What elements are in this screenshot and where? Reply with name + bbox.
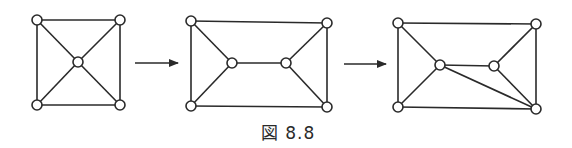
graph-edge — [398, 23, 536, 24]
graph-edge — [440, 65, 536, 109]
graph-edge — [191, 63, 232, 106]
graph-edge — [398, 107, 536, 109]
graph-edge — [398, 65, 440, 107]
graph-node — [489, 61, 499, 71]
graph-node — [73, 57, 83, 67]
graph-node — [115, 15, 125, 25]
graph-node — [393, 18, 403, 28]
graph-node — [435, 60, 445, 70]
graph-node — [393, 102, 403, 112]
graph-node — [281, 58, 291, 68]
graph-node — [115, 100, 125, 110]
graph-node — [531, 104, 541, 114]
graph-edge — [494, 24, 536, 66]
figure-caption: 図 8.8 — [0, 119, 572, 144]
graph-edge — [191, 21, 327, 23]
graph-edge — [398, 23, 440, 65]
graph-edge — [78, 20, 120, 62]
graph-node — [32, 15, 42, 25]
graph-node — [322, 18, 332, 28]
graph-node — [531, 19, 541, 29]
graph-edge — [191, 106, 327, 107]
graph-node — [227, 58, 237, 68]
graph-edge — [191, 21, 232, 63]
graph-node — [186, 101, 196, 111]
graphs — [32, 15, 541, 114]
graph-node — [322, 102, 332, 112]
graph-node — [186, 16, 196, 26]
graph-edge — [440, 65, 494, 66]
graph-edge — [37, 20, 78, 62]
graph-edge — [286, 63, 327, 107]
graph-edge — [78, 62, 120, 105]
graph-edge — [286, 23, 327, 63]
graph-3 — [393, 18, 541, 114]
graph-2 — [186, 16, 332, 112]
graph-node — [32, 100, 42, 110]
graph-edge — [494, 66, 536, 109]
graph-1 — [32, 15, 125, 110]
graph-edge — [37, 62, 78, 105]
